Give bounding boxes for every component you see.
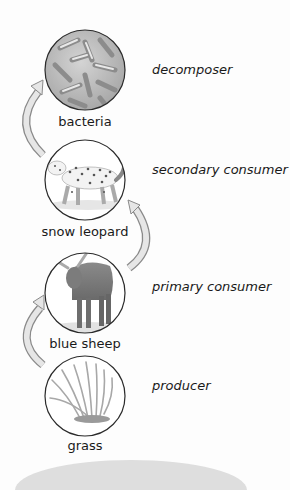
arrow-grass-to-sheep [27,295,44,365]
role-label-secondary-consumer: secondary consumer [152,162,288,177]
role-label-decomposer: decomposer [152,62,232,77]
organism-label-grass: grass [25,438,145,453]
snow-leopard-icon [45,140,128,220]
organism-label-bacteria: bacteria [25,114,145,129]
role-label-primary-consumer: primary consumer [152,279,271,294]
bacteria-icon [45,30,125,110]
blue-sheep-icon [45,253,128,334]
grass-icon [45,355,126,436]
role-label-producer: producer [152,378,211,393]
organism-label-snow-leopard: snow leopard [25,224,145,239]
organism-label-blue-sheep: blue sheep [25,336,145,351]
